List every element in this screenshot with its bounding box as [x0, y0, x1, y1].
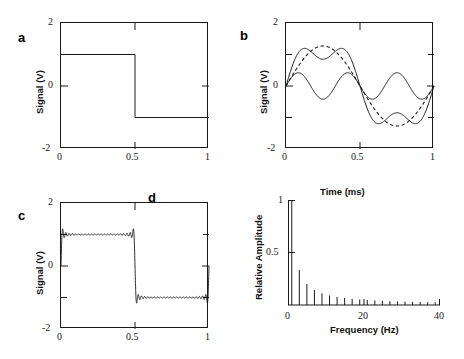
panel-d-ytick-1: 1: [278, 194, 283, 205]
panel-b-ytick-2: 2: [273, 16, 278, 27]
panel-b-series-group: [286, 46, 434, 126]
panel-d-xtick-0: 0: [285, 310, 290, 321]
panel-d-ytick-05: 0.5: [266, 246, 279, 257]
panel-b-ylabel: Signal (V): [258, 70, 269, 114]
panel-a-plot-area: [60, 22, 208, 148]
panel-d-stem-group: [292, 200, 435, 305]
panel-d-spectrum: [288, 200, 448, 318]
panel-c-letter: c: [18, 208, 25, 223]
panel-c-xtick-0: 0: [57, 331, 62, 342]
panel-b-xtick-1: 1: [430, 151, 435, 162]
panel-d-ylabel: Relative Amplitude: [253, 215, 264, 300]
panel-c-xtick-05: 0.5: [126, 331, 139, 342]
panel-b-xlabel: Time (ms): [320, 186, 365, 197]
panel-d-plot-area: [288, 200, 438, 310]
panel-b-curves: [286, 23, 434, 149]
panel-a-xtick-0: 0: [57, 151, 62, 162]
panel-c-ytick-neg2: -2: [42, 322, 50, 333]
panel-c-xtick-1: 1: [205, 331, 210, 342]
panel-a-xtick-05: 0.5: [126, 151, 139, 162]
panel-d-xtick-40: 40: [434, 310, 444, 321]
panel-c-ytick-0: 0: [48, 259, 53, 270]
panel-a-xtick-1: 1: [205, 151, 210, 162]
panel-a-letter: a: [18, 30, 25, 45]
panel-c-ylabel: Signal (V): [34, 251, 45, 295]
panel-a-ytick-0: 0: [48, 79, 53, 90]
panel-c-plot-area: [60, 202, 208, 328]
panel-b-xtick-0: 0: [282, 151, 287, 162]
panel-b-letter: b: [240, 28, 248, 43]
panel-b-ytick-0: 0: [273, 79, 278, 90]
panel-b-ytick-neg2: -2: [267, 142, 275, 153]
panel-b-xtick-05: 0.5: [351, 151, 364, 162]
panel-d-xtick-20: 20: [358, 310, 368, 321]
panel-c-ytick-2: 2: [48, 196, 53, 207]
panel-a-ytick-2: 2: [48, 16, 53, 27]
panel-c-curve-partial-sum: [61, 203, 209, 329]
panel-a-curve-square-wave: [61, 23, 209, 149]
panel-b-plot-area: [285, 22, 433, 148]
panel-a-ytick-neg2: -2: [42, 142, 50, 153]
panel-d-xlabel: Frequency (Hz): [330, 324, 399, 335]
panel-a-ylabel: Signal (V): [34, 70, 45, 114]
